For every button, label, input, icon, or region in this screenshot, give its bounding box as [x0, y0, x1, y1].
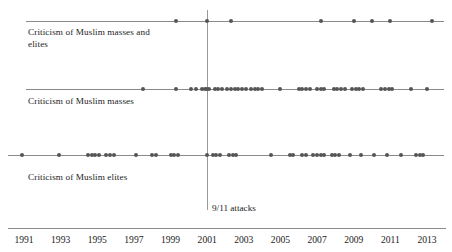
data-point	[319, 19, 323, 23]
data-point	[174, 19, 178, 23]
data-point	[57, 153, 61, 157]
data-point	[244, 87, 248, 91]
data-point	[359, 153, 363, 157]
data-point	[361, 87, 365, 91]
data-point	[409, 87, 413, 91]
data-point	[218, 153, 222, 157]
data-point	[154, 153, 158, 157]
timeline-scatter-chart: Criticism of Muslim masses and elites Cr…	[0, 0, 452, 252]
data-point	[430, 19, 434, 23]
x-tick-label: 2007	[307, 234, 326, 245]
x-tick-label: 1995	[88, 234, 107, 245]
lane-rule-masses-and-elites	[26, 21, 444, 22]
event-annotation-911: 9/11 attacks	[212, 203, 256, 213]
data-point	[372, 153, 376, 157]
data-point	[348, 153, 352, 157]
x-tick-label: 2003	[234, 234, 253, 245]
data-point	[234, 153, 238, 157]
data-point	[343, 87, 347, 91]
data-point	[220, 87, 224, 91]
data-point	[176, 153, 180, 157]
data-point	[370, 19, 374, 23]
data-point	[141, 87, 145, 91]
x-tick-label: 1999	[161, 234, 180, 245]
data-point	[260, 87, 264, 91]
x-tick-label: 2001	[198, 234, 217, 245]
data-point	[134, 153, 138, 157]
data-point	[205, 153, 209, 157]
lane-label-masses-and-elites: Criticism of Muslim masses and elites	[28, 27, 198, 50]
x-tick-label: 1991	[14, 234, 33, 245]
x-tick-label: 2011	[381, 234, 400, 245]
data-point	[304, 153, 308, 157]
data-point	[97, 153, 101, 157]
x-tick-label: 2009	[344, 234, 363, 245]
data-point	[308, 87, 312, 91]
data-point	[112, 153, 116, 157]
data-point	[388, 19, 392, 23]
data-point	[425, 87, 429, 91]
data-point	[385, 153, 389, 157]
data-point	[278, 87, 282, 91]
data-point	[229, 19, 233, 23]
lane-rule-elites	[8, 155, 444, 156]
data-point	[352, 19, 356, 23]
lane-label-masses: Criticism of Muslim masses	[28, 96, 208, 108]
data-point	[174, 87, 178, 91]
data-point	[322, 87, 326, 91]
x-axis-line	[8, 228, 446, 229]
data-point	[399, 153, 403, 157]
data-point	[189, 87, 193, 91]
lane-label-elites: Criticism of Muslim elites	[28, 172, 208, 184]
data-point	[291, 153, 295, 157]
data-point	[421, 153, 425, 157]
data-point	[390, 87, 394, 91]
x-tick-label: 2013	[417, 234, 436, 245]
data-point	[322, 153, 326, 157]
x-tick-label: 1997	[124, 234, 143, 245]
x-tick-label: 1993	[51, 234, 70, 245]
data-point	[194, 87, 198, 91]
data-point	[337, 153, 341, 157]
x-tick-label: 2005	[271, 234, 290, 245]
data-point	[205, 19, 209, 23]
data-point	[269, 153, 273, 157]
data-point	[207, 87, 211, 91]
data-point	[20, 153, 24, 157]
